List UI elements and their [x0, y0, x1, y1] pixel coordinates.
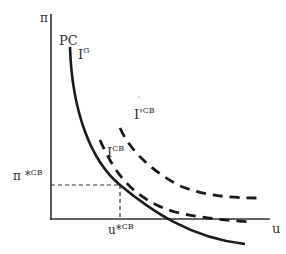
icb-upper-label-sup: CB	[143, 106, 155, 115]
pc-label: PC	[59, 34, 78, 47]
stray-mark	[138, 96, 140, 98]
u-star-label-main: u*	[108, 223, 122, 237]
u-star-label-sup: CB	[122, 222, 134, 231]
pi-star-label-sup: CB	[31, 168, 43, 177]
u-star-label: u*CB	[108, 224, 134, 236]
pi-star-label: π *CB	[13, 170, 43, 182]
icb-lower-label-sup: CB	[112, 144, 124, 153]
ig-label-sup: G	[83, 46, 89, 55]
icb-upper-label: I'CB	[134, 108, 155, 121]
ig-label: IG	[78, 48, 90, 61]
icb-upper-label-main: I'	[134, 107, 143, 122]
x-axis-label: u	[272, 222, 280, 235]
icb-upper-curve	[120, 128, 262, 198]
diagram-canvas	[0, 0, 286, 254]
pc-curve	[70, 47, 245, 244]
y-axis-label: π	[40, 12, 48, 24]
pi-star-label-main: π *	[13, 169, 31, 183]
icb-lower-label: ICB	[107, 146, 124, 159]
